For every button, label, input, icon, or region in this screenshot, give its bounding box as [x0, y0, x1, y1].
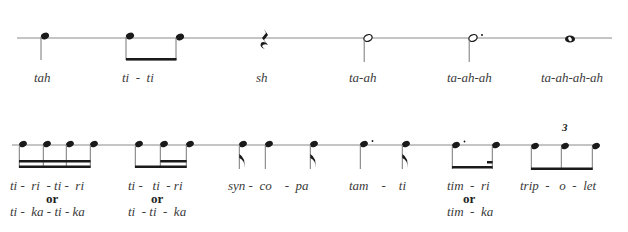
label-ti-ti: ti - ti [122, 71, 154, 85]
label-ti-ti-ka: ti - ti - ka [128, 205, 186, 219]
notation-canvas [0, 0, 628, 232]
quarter-note-icon [40, 31, 50, 60]
four-sixteenth-notes-icon [18, 140, 99, 168]
label-ta-ah-ah: ta-ah-ah [447, 71, 492, 85]
quarter-rest-icon [261, 29, 269, 49]
label-syn-co-pa: syn - co - pa [228, 179, 309, 193]
half-note-icon [363, 33, 373, 62]
syncopation-icon [238, 140, 319, 169]
label-ta-ah-ah-ah: ta-ah-ah-ah [541, 71, 603, 85]
label-ti-ka-ti-ka: ti - ka - ti - ka [10, 205, 85, 219]
label-tim-ka: tim - ka [447, 205, 493, 219]
two-eighth-notes-icon [125, 31, 185, 60]
whole-note-icon [565, 35, 575, 42]
eighth-note-triplet-icon [530, 142, 601, 170]
label-sh: sh [256, 71, 268, 85]
label-tam-ti: tam - ti [349, 179, 406, 193]
label-trip-o-let: trip - o - let [520, 179, 596, 193]
label-ta-ah: ta-ah [349, 71, 376, 85]
eighth-two-sixteenths-icon [134, 140, 195, 168]
rhythm-chart: tah ti - ti sh ta-ah ta-ah-ah ta-ah-ah-a… [0, 0, 628, 232]
dotted-quarter-eighth-icon [359, 140, 411, 169]
label-tah: tah [34, 71, 51, 85]
tuplet-number: 3 [562, 121, 568, 133]
